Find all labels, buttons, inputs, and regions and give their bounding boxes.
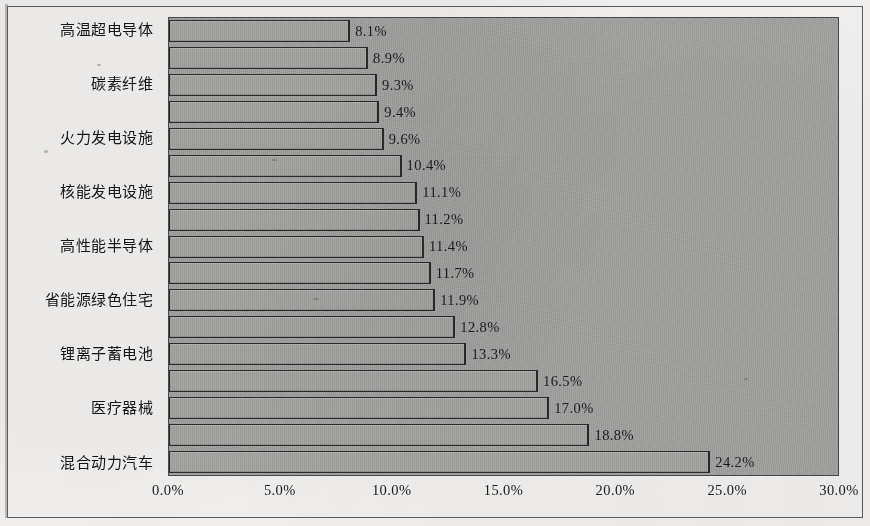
bar-value-label: 11.2% xyxy=(425,212,464,227)
bar xyxy=(169,155,402,177)
category-label-row-empty xyxy=(0,263,162,285)
bar-value-label: 9.4% xyxy=(384,105,416,120)
bar-value-label: 17.0% xyxy=(554,401,593,416)
x-axis-tick-label: 15.0% xyxy=(484,483,523,498)
category-label: 核能发电设施 xyxy=(60,185,153,200)
category-label: 混合动力汽车 xyxy=(60,456,153,471)
bar xyxy=(169,74,377,96)
category-label-row-empty xyxy=(0,154,162,176)
bar-row: 17.0% xyxy=(169,397,838,419)
bar-value-label: 9.3% xyxy=(382,78,414,93)
bar-row: 8.1% xyxy=(169,20,838,42)
category-axis: 高温超电导体碳素纤维火力发电设施核能发电设施高性能半导体省能源绿色住宅锂离子蓄电… xyxy=(0,17,162,476)
bar-value-label: 24.2% xyxy=(715,455,754,470)
value-axis: 0.0%5.0%10.0%15.0%20.0%25.0%30.0% xyxy=(168,483,839,509)
bar-row: 18.8% xyxy=(169,424,838,446)
bar-value-label: 18.8% xyxy=(594,428,633,443)
category-label-row: 火力发电设施 xyxy=(0,127,162,149)
bar xyxy=(169,316,455,338)
bar xyxy=(169,47,368,69)
bar-row: 11.7% xyxy=(169,262,838,284)
category-label-row: 核能发电设施 xyxy=(0,181,162,203)
bar-value-label: 10.4% xyxy=(407,158,446,173)
category-label-row: 混合动力汽车 xyxy=(0,452,162,474)
bar-value-label: 11.9% xyxy=(440,293,479,308)
bar-value-label: 8.1% xyxy=(355,24,387,39)
bar-row: 13.3% xyxy=(169,343,838,365)
bar xyxy=(169,236,424,258)
category-label: 高温超电导体 xyxy=(60,23,153,38)
bar xyxy=(169,397,549,419)
x-axis-tick-label: 5.0% xyxy=(264,483,296,498)
bar-row: 9.3% xyxy=(169,74,838,96)
bar-value-label: 11.4% xyxy=(429,239,468,254)
bar xyxy=(169,370,538,392)
category-label: 医疗器械 xyxy=(91,401,153,416)
category-label: 火力发电设施 xyxy=(60,131,153,146)
category-label-row: 碳素纤维 xyxy=(0,73,162,95)
category-label-row: 省能源绿色住宅 xyxy=(0,290,162,312)
x-axis-tick-label: 10.0% xyxy=(372,483,411,498)
bar-row: 9.4% xyxy=(169,101,838,123)
chart-screenshot: 高温超电导体碳素纤维火力发电设施核能发电设施高性能半导体省能源绿色住宅锂离子蓄电… xyxy=(0,0,870,526)
category-label-row: 医疗器械 xyxy=(0,398,162,420)
bar xyxy=(169,182,417,204)
bar-row: 11.2% xyxy=(169,209,838,231)
bar-value-label: 9.6% xyxy=(389,132,421,147)
bar-series: 8.1%8.9%9.3%9.4%9.6%10.4%11.1%11.2%11.4%… xyxy=(169,18,838,475)
bar-row: 11.9% xyxy=(169,289,838,311)
category-label-row-empty xyxy=(0,46,162,68)
bar-value-label: 8.9% xyxy=(373,51,405,66)
bar xyxy=(169,209,420,231)
bar-row: 9.6% xyxy=(169,128,838,150)
bar xyxy=(169,101,379,123)
bar xyxy=(169,128,384,150)
bar-row: 11.4% xyxy=(169,236,838,258)
bar-value-label: 13.3% xyxy=(471,347,510,362)
bar xyxy=(169,424,589,446)
bar-row: 8.9% xyxy=(169,47,838,69)
bar-row: 11.1% xyxy=(169,182,838,204)
category-label-row: 锂离子蓄电池 xyxy=(0,344,162,366)
category-label-row-empty xyxy=(0,371,162,393)
bar-row: 16.5% xyxy=(169,370,838,392)
category-label-row-empty xyxy=(0,425,162,447)
category-label-row-empty xyxy=(0,317,162,339)
category-label: 碳素纤维 xyxy=(91,77,153,92)
bar xyxy=(169,451,710,473)
x-axis-tick-label: 0.0% xyxy=(152,483,184,498)
bar-row: 12.8% xyxy=(169,316,838,338)
x-axis-tick-label: 30.0% xyxy=(819,483,858,498)
category-label-row: 高温超电导体 xyxy=(0,19,162,41)
bar-value-label: 11.7% xyxy=(436,266,475,281)
plot-area: 8.1%8.9%9.3%9.4%9.6%10.4%11.1%11.2%11.4%… xyxy=(168,17,839,476)
bar-value-label: 12.8% xyxy=(460,320,499,335)
bar xyxy=(169,20,350,42)
bar-value-label: 11.1% xyxy=(422,185,461,200)
category-label: 锂离子蓄电池 xyxy=(60,347,153,362)
bar-row: 10.4% xyxy=(169,155,838,177)
x-axis-tick-label: 25.0% xyxy=(707,483,746,498)
category-label: 省能源绿色住宅 xyxy=(45,293,154,308)
category-label-row: 高性能半导体 xyxy=(0,236,162,258)
bar-row: 24.2% xyxy=(169,451,838,473)
category-label: 高性能半导体 xyxy=(60,239,153,254)
x-axis-tick-label: 20.0% xyxy=(596,483,635,498)
bar xyxy=(169,262,431,284)
bar xyxy=(169,343,466,365)
bar-value-label: 16.5% xyxy=(543,374,582,389)
bar xyxy=(169,289,435,311)
category-label-row-empty xyxy=(0,100,162,122)
category-label-row-empty xyxy=(0,208,162,230)
